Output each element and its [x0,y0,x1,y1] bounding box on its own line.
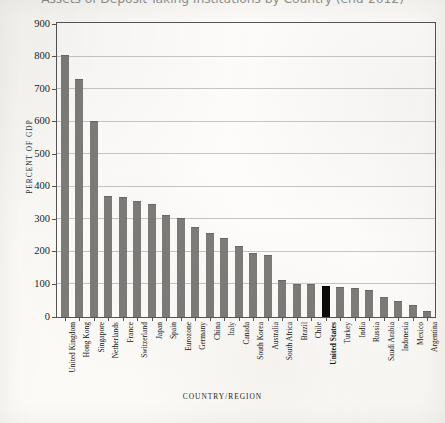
x-tick-mark [108,318,109,321]
bar [423,311,431,317]
x-tick-label: Chile [314,322,323,338]
x-tick-mark [268,318,269,321]
x-tick-mark [398,318,399,321]
bar [278,280,286,317]
bar-slot [203,24,218,317]
x-tick-mark [123,318,124,321]
x-tick-label: Germany [198,322,207,350]
bar-slot [72,24,87,317]
x-tick-mark [297,318,298,321]
bar [394,301,402,317]
bar [104,196,112,317]
bar-slot [159,24,174,317]
bar-slot [232,24,247,317]
bar [61,55,69,316]
bar-slot [391,24,406,317]
x-tick-label: Indonesia [401,322,410,351]
x-tick-mark [181,318,182,321]
y-tick-label: 200 [16,246,50,257]
x-tick-mark [65,318,66,321]
x-tick-label: Switzerland [140,322,149,358]
x-axis-title: COUNTRY/REGION [0,392,445,401]
x-tick-mark [253,318,254,321]
x-tick-mark [340,318,341,321]
x-tick-label: Turkey [343,322,352,343]
bar [336,287,344,316]
bar-slot [87,24,102,317]
bar [148,204,156,316]
x-tick-mark [311,318,312,321]
x-tick-label: Netherlands [111,322,120,358]
chart-page: Assets of Deposit-Taking Institutions by… [0,0,445,423]
y-tick-label: 100 [16,279,50,290]
bar-slot [406,24,421,317]
y-tick-label: 800 [16,51,50,62]
bar-slot [58,24,73,317]
bar [293,284,301,317]
chart-title: Assets of Deposit-Taking Institutions by… [0,0,445,6]
x-tick-label: China [213,322,222,340]
x-tick-label: Russia [372,322,381,342]
y-tick-mark [52,186,56,187]
x-tick-mark [326,318,327,321]
x-tick-mark [94,318,95,321]
y-tick-mark [52,284,56,285]
bar-slot [420,24,435,317]
y-tick-mark [52,219,56,220]
x-tick-label: United States [329,322,338,365]
bar-slot [348,24,363,317]
bar-slot [188,24,203,317]
bar [133,201,141,317]
x-tick-mark [413,318,414,321]
y-tick-mark [52,251,56,252]
bar-slot [217,24,232,317]
y-tick-mark [52,154,56,155]
x-tick-mark [79,318,80,321]
x-tick-mark [224,318,225,321]
x-tick-label: Argentina [430,322,439,352]
x-tick-label: Australia [271,322,280,350]
bar [119,197,127,316]
bar [90,121,98,316]
bar [75,79,83,317]
x-tick-mark [239,318,240,321]
x-tick-label: United Kingdom [68,322,77,373]
bar [235,246,243,317]
x-tick-label: Mexico [416,322,425,345]
bar-slot [174,24,189,317]
bar-slot [304,24,319,317]
bar [162,215,170,317]
bar-slot [130,24,145,317]
x-tick-label: Japan [155,322,164,339]
bar [409,305,417,317]
x-tick-label: Hong Kong [82,322,91,357]
bar-slot [116,24,131,317]
x-tick-label: Canada [242,322,251,344]
x-tick-label: Spain [169,322,178,339]
y-tick-mark [52,121,56,122]
x-tick-label: Saudi Arabia [387,322,396,361]
y-axis-title: PERCENT OF GDP [25,97,34,217]
bar [351,288,359,317]
bar-slot [333,24,348,317]
x-tick-mark [152,318,153,321]
bar [191,227,199,317]
bar [380,297,388,317]
y-tick-mark [52,89,56,90]
x-tick-label: Singapore [97,322,106,352]
bar-slot [290,24,305,317]
y-tick-label: 900 [16,19,50,30]
x-tick-mark [166,318,167,321]
x-tick-label: Italy [227,322,236,336]
y-tick-mark [52,317,56,318]
bar [307,284,315,316]
bar-slot [261,24,276,317]
x-tick-label: France [126,322,135,342]
bar-slot [145,24,160,317]
bar-slot [275,24,290,317]
bar-slot [246,24,261,317]
x-tick-mark [369,318,370,321]
bar [177,218,185,317]
x-tick-label: South Korea [256,322,265,360]
x-tick-mark [355,318,356,321]
